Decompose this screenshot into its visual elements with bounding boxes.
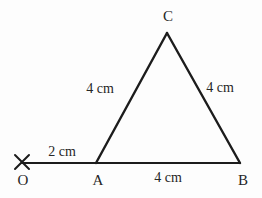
measurement-label-AB: 4 cm	[154, 171, 182, 185]
measurement-label-CB: 4 cm	[206, 81, 234, 95]
vertex-label-C: C	[163, 9, 173, 24]
geometry-figure: O A B C 2 cm 4 cm 4 cm 4 cm	[0, 0, 262, 198]
vertex-label-A: A	[93, 173, 104, 188]
segment-CB	[167, 33, 240, 163]
measurement-label-OA: 2 cm	[48, 145, 76, 159]
vertex-label-B: B	[238, 173, 248, 188]
measurement-label-AC: 4 cm	[86, 82, 114, 96]
diagram-canvas	[0, 0, 262, 198]
segment-AC	[96, 33, 167, 163]
vertex-label-O: O	[18, 173, 29, 188]
